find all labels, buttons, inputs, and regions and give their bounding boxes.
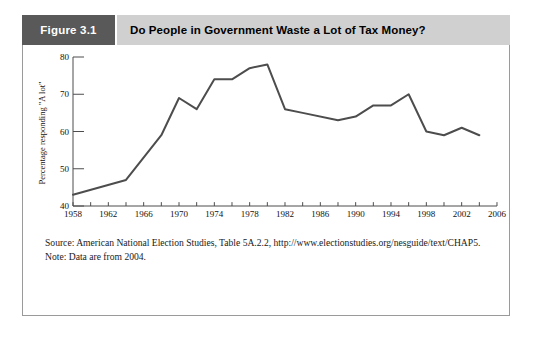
y-tick-label: 60 — [60, 127, 69, 137]
y-tick-label: 70 — [60, 89, 69, 99]
y-axis-label-holder: Percentage responding "A lot" — [35, 58, 49, 208]
axis-lines — [73, 57, 497, 206]
y-axis-label: Percentage responding "A lot" — [35, 58, 49, 208]
x-tick-label: 1982 — [276, 209, 294, 219]
axis-ticks — [73, 57, 497, 206]
figure-number-tab: Figure 3.1 — [22, 15, 115, 45]
source-line: Source: American National Election Studi… — [45, 237, 491, 250]
figure-container: Figure 3.1 Do People in Government Waste… — [22, 15, 510, 317]
x-tick-label: 1978 — [241, 209, 259, 219]
x-tick-label: 1998 — [417, 209, 435, 219]
data-series-line — [73, 64, 479, 194]
chart-svg — [73, 57, 497, 206]
x-tick-label: 1958 — [64, 209, 82, 219]
x-tick-label: 1966 — [135, 209, 153, 219]
x-tick-label: 1986 — [311, 209, 329, 219]
x-tick-label: 1990 — [347, 209, 365, 219]
line-chart: Percentage responding "A lot" 4050607080… — [31, 53, 501, 228]
x-tick-label: 1974 — [205, 209, 223, 219]
x-tick-label: 1994 — [382, 209, 400, 219]
figure-title: Do People in Government Waste a Lot of T… — [115, 15, 510, 45]
figure-panel: Percentage responding "A lot" 4050607080… — [22, 45, 510, 316]
figure-notes: Source: American National Election Studi… — [45, 237, 491, 263]
x-tick-label: 2006 — [488, 209, 506, 219]
y-tick-label: 80 — [60, 52, 69, 62]
x-tick-label: 2002 — [453, 209, 471, 219]
figure-header: Figure 3.1 Do People in Government Waste… — [22, 15, 510, 45]
note-line: Note: Data are from 2004. — [45, 251, 491, 264]
plot-area: 4050607080 19581962196619701974197819821… — [73, 57, 497, 206]
y-tick-label: 50 — [60, 164, 69, 174]
x-tick-label: 1970 — [170, 209, 188, 219]
x-tick-label: 1962 — [99, 209, 117, 219]
